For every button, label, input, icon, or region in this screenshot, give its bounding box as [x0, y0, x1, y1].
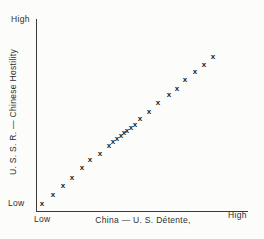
- data-point-marker: x: [211, 53, 215, 61]
- data-point-marker: x: [98, 150, 102, 158]
- data-point-marker: x: [70, 174, 74, 182]
- data-point-marker: x: [156, 99, 160, 107]
- data-point-marker: x: [183, 76, 187, 84]
- data-point-marker: x: [88, 156, 92, 164]
- points-layer: xxxxxxxxxxxxxxxxxxxxxxxx: [0, 0, 264, 239]
- data-point-marker: x: [138, 115, 142, 123]
- data-point-marker: x: [193, 68, 197, 76]
- data-point-marker: x: [202, 61, 206, 69]
- scatter-plot-figure: High Low Low High U. S. S. R. — Chinese …: [0, 0, 264, 239]
- data-point-marker: x: [51, 191, 55, 199]
- data-point-marker: x: [80, 164, 84, 172]
- data-point-marker: x: [175, 85, 179, 93]
- data-point-marker: x: [147, 108, 151, 116]
- data-point-marker: x: [61, 182, 65, 190]
- data-point-marker: x: [133, 121, 137, 129]
- data-point-marker: x: [40, 200, 44, 208]
- data-point-marker: x: [167, 91, 171, 99]
